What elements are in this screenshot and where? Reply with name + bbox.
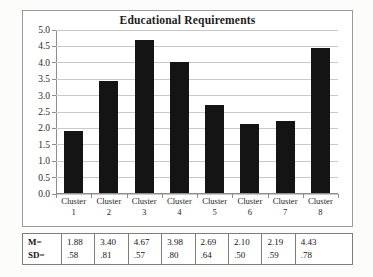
bar	[311, 48, 330, 193]
y-axis-tick	[52, 30, 56, 31]
y-axis-tick-label: 2.0	[38, 123, 50, 133]
stats-column: 3.40.81	[95, 234, 128, 264]
category-label-word: Cluster	[61, 196, 86, 206]
y-axis-tick-label: 0.0	[38, 189, 50, 199]
category-label-number: 7	[268, 207, 303, 218]
stats-column: 3.98.80	[162, 234, 195, 264]
x-axis-category-label: Cluster4	[162, 196, 197, 218]
stats-column: 4.43.78	[296, 234, 352, 264]
y-axis-tick-label: 0.5	[38, 173, 50, 183]
plot-area: 0.00.51.01.52.02.53.03.54.04.55.0	[56, 30, 338, 194]
y-axis-tick	[52, 144, 56, 145]
stats-label-sd: SD=	[28, 249, 61, 262]
stats-column: 2.69.64	[196, 234, 229, 264]
figure-container: Educational Requirements 0.00.51.01.52.0…	[0, 0, 373, 277]
x-axis-category-labels: Cluster1Cluster2Cluster3Cluster4Cluster5…	[56, 196, 338, 228]
category-label-word: Cluster	[132, 196, 157, 206]
x-axis-tick	[338, 194, 339, 198]
stats-column: 4.67.57	[129, 234, 162, 264]
stats-column: 2.19.59	[262, 234, 295, 264]
y-axis-tick-label: 3.0	[38, 91, 50, 101]
y-axis-tick	[52, 95, 56, 96]
category-label-word: Cluster	[167, 196, 192, 206]
chart-frame: Educational Requirements 0.00.51.01.52.0…	[22, 10, 353, 227]
stats-sd-value: .58	[67, 249, 94, 262]
y-axis-tick-label: 1.0	[38, 156, 50, 166]
stats-sd-value: .50	[234, 249, 261, 262]
category-label-number: 8	[303, 207, 338, 218]
category-label-number: 3	[127, 207, 162, 218]
stats-sd-value: .64	[201, 249, 228, 262]
chart-title: Educational Requirements	[23, 14, 352, 26]
y-axis-tick-label: 1.5	[38, 140, 50, 150]
y-axis-tick-label: 3.5	[38, 74, 50, 84]
category-label-word: Cluster	[237, 196, 262, 206]
bar	[170, 62, 189, 193]
stats-label-mean: M=	[28, 236, 61, 249]
y-axis-tick-label: 2.5	[38, 107, 50, 117]
y-axis-tick	[52, 112, 56, 113]
category-label-word: Cluster	[202, 196, 227, 206]
x-axis-category-label: Cluster1	[56, 196, 91, 218]
x-axis-category-label: Cluster2	[91, 196, 126, 218]
gridline	[56, 144, 338, 145]
bar	[64, 131, 83, 193]
gridline	[56, 161, 338, 162]
category-label-number: 6	[232, 207, 267, 218]
x-axis-category-label: Cluster6	[232, 196, 267, 218]
y-axis-tick-label: 4.0	[38, 58, 50, 68]
gridline	[56, 112, 338, 113]
bar	[240, 124, 259, 193]
gridline	[56, 177, 338, 178]
stats-mean-value: 3.40	[100, 236, 127, 249]
stats-mean-value: 2.19	[267, 236, 294, 249]
stats-column: 2.10.50	[229, 234, 262, 264]
gridline	[56, 62, 338, 63]
stats-column: 1.88.58	[62, 234, 95, 264]
stats-mean-value: 4.67	[134, 236, 161, 249]
gridline	[56, 79, 338, 80]
stats-sd-value: .81	[100, 249, 127, 262]
category-label-word: Cluster	[273, 196, 298, 206]
bar	[205, 105, 224, 193]
stats-mean-value: 4.43	[301, 236, 352, 249]
y-axis-tick	[52, 161, 56, 162]
stats-mean-value: 3.98	[167, 236, 194, 249]
y-axis-tick-label: 4.5	[38, 41, 50, 51]
y-axis-tick	[52, 62, 56, 63]
x-axis-category-label: Cluster3	[127, 196, 162, 218]
gridline	[56, 30, 338, 31]
stats-sd-value: .78	[301, 249, 352, 262]
y-axis-tick	[52, 79, 56, 80]
category-label-word: Cluster	[96, 196, 121, 206]
x-axis-category-label: Cluster5	[197, 196, 232, 218]
stats-sd-value: .80	[167, 249, 194, 262]
stats-mean-value: 2.69	[201, 236, 228, 249]
x-axis-category-label: Cluster7	[268, 196, 303, 218]
category-label-number: 4	[162, 207, 197, 218]
y-axis-tick	[52, 46, 56, 47]
stats-mean-value: 1.88	[67, 236, 94, 249]
stats-row-label-column: M= SD=	[23, 234, 62, 264]
y-axis-tick	[52, 177, 56, 178]
stats-sd-value: .57	[134, 249, 161, 262]
gridline	[56, 46, 338, 47]
y-axis-tick	[52, 128, 56, 129]
x-axis-category-label: Cluster8	[303, 196, 338, 218]
gridline	[56, 128, 338, 129]
category-label-number: 2	[91, 207, 126, 218]
bar	[99, 81, 118, 193]
category-label-word: Cluster	[308, 196, 333, 206]
gridline	[56, 95, 338, 96]
category-label-number: 5	[197, 207, 232, 218]
stats-table: M= SD= 1.88.583.40.814.67.573.98.802.69.…	[22, 233, 353, 265]
stats-mean-value: 2.10	[234, 236, 261, 249]
bar	[276, 121, 295, 193]
stats-sd-value: .59	[267, 249, 294, 262]
y-axis-tick-label: 5.0	[38, 25, 50, 35]
category-label-number: 1	[56, 207, 91, 218]
bar	[135, 40, 154, 193]
